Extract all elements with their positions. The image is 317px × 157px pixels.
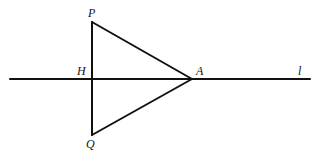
label-a: A [195,64,204,78]
label-p: P [87,6,96,20]
label-q: Q [86,137,95,151]
segment-qa [92,79,192,135]
geometry-diagram: P H A Q l [0,0,317,157]
label-l: l [298,64,302,78]
label-h: H [76,64,87,78]
segment-pa [92,22,192,79]
